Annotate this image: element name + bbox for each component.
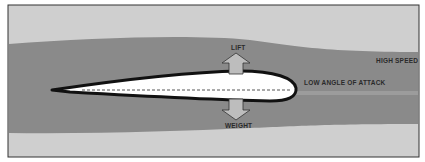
weight-label: WEIGHT bbox=[225, 122, 252, 129]
airfoil-diagram: LIFT WEIGHT HIGH SPEED LOW ANGLE OF ATTA… bbox=[0, 0, 425, 162]
low-angle-of-attack-label: LOW ANGLE OF ATTACK bbox=[304, 79, 386, 86]
wake-stripe bbox=[290, 91, 418, 95]
lift-label: LIFT bbox=[231, 44, 246, 51]
high-speed-label: HIGH SPEED bbox=[376, 57, 418, 64]
